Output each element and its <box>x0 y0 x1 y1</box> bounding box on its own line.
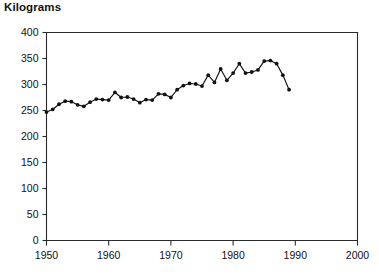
data-point <box>281 73 285 77</box>
data-point <box>82 104 86 108</box>
data-point <box>244 71 248 75</box>
y-tick-label: 250 <box>21 104 39 116</box>
data-point <box>163 92 167 96</box>
data-series-line <box>47 61 290 112</box>
data-point <box>63 99 67 103</box>
x-tick-label: 1960 <box>97 249 121 261</box>
y-tick-label: 400 <box>21 26 39 38</box>
data-point <box>157 92 161 96</box>
data-point <box>188 82 192 86</box>
data-point <box>45 110 49 114</box>
x-axis-tick-marks <box>47 241 358 246</box>
data-point <box>237 62 241 66</box>
data-point <box>169 96 173 100</box>
y-tick-label: 350 <box>21 52 39 64</box>
x-tick-label: 1980 <box>221 249 245 261</box>
data-point <box>150 98 154 102</box>
data-point <box>51 108 55 112</box>
data-point <box>213 81 217 85</box>
data-point <box>125 95 129 99</box>
x-tick-label: 1990 <box>284 249 308 261</box>
data-point <box>194 82 198 86</box>
x-tick-label: 1970 <box>159 249 183 261</box>
data-point <box>132 97 136 101</box>
data-point <box>275 62 279 66</box>
data-point <box>225 78 229 82</box>
chart-plot-area: 050100150200250300350400 195019601970198… <box>0 0 379 279</box>
data-point <box>287 88 291 92</box>
data-point <box>101 98 105 102</box>
data-point <box>219 67 223 71</box>
chart-figure: Kilograms 050100150200250300350400 19501… <box>0 0 379 279</box>
data-point <box>138 101 142 105</box>
data-point <box>256 68 260 72</box>
data-point <box>88 100 92 104</box>
y-tick-label: 300 <box>21 78 39 90</box>
y-tick-label: 50 <box>27 208 39 220</box>
data-point <box>57 102 61 106</box>
data-point <box>113 90 117 94</box>
data-point <box>119 96 123 100</box>
x-tick-label: 2000 <box>346 249 370 261</box>
plot-frame <box>47 33 358 241</box>
data-point <box>250 70 254 74</box>
y-axis-tick-labels: 050100150200250300350400 <box>21 26 39 246</box>
data-point <box>206 73 210 77</box>
data-point <box>76 103 80 107</box>
data-point <box>94 97 98 101</box>
data-point <box>269 59 273 63</box>
data-point <box>262 59 266 63</box>
data-point <box>175 88 179 92</box>
y-tick-label: 150 <box>21 156 39 168</box>
y-axis-tick-marks <box>43 33 47 241</box>
x-axis-tick-labels: 195019601970198019902000 <box>35 249 370 261</box>
data-point <box>231 71 235 75</box>
x-tick-label: 1950 <box>35 249 59 261</box>
data-point <box>200 84 204 88</box>
y-tick-label: 200 <box>21 130 39 142</box>
y-tick-label: 0 <box>33 234 39 246</box>
y-tick-label: 100 <box>21 182 39 194</box>
data-point <box>181 84 185 88</box>
data-point <box>69 100 73 104</box>
data-point <box>107 98 111 102</box>
data-point <box>144 98 148 102</box>
